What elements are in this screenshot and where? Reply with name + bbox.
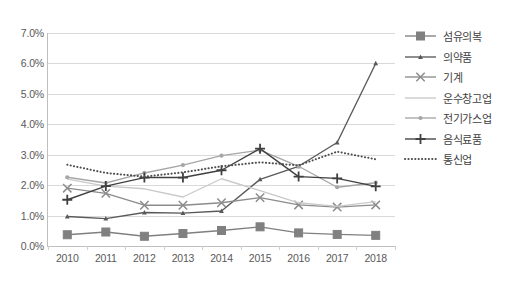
legend-label: 의약품 — [443, 49, 472, 65]
data-point-marker — [178, 173, 188, 183]
legend-label: 기계 — [443, 69, 462, 85]
series-layer — [48, 33, 395, 246]
x-axis-tick — [202, 246, 203, 250]
data-point-marker — [102, 228, 110, 236]
legend-key-icon — [404, 91, 437, 105]
x-tick-label: 2014 — [210, 252, 233, 264]
data-point-marker — [333, 230, 341, 238]
data-point-marker — [256, 223, 264, 231]
legend-key-icon — [404, 70, 437, 84]
plot-area — [48, 33, 395, 246]
y-axis-tick-labels: 0.0%1.0%2.0%3.0%4.0%5.0%6.0%7.0% — [0, 33, 44, 246]
legend-label: 전기가스업 — [443, 110, 492, 126]
data-point-marker — [179, 230, 187, 238]
x-tick-label: 2016 — [287, 252, 310, 264]
legend-label: 통신업 — [443, 151, 472, 167]
data-point-marker — [418, 116, 422, 120]
data-point-marker — [294, 172, 304, 182]
line-chart: 0.0%1.0%2.0%3.0%4.0%5.0%6.0%7.0% 2010201… — [0, 0, 511, 286]
legend-label: 섬유의복 — [443, 28, 482, 44]
x-axis-tick — [395, 246, 396, 250]
legend-item-기계[interactable]: 기계 — [404, 67, 509, 88]
x-axis-tick — [241, 246, 242, 250]
series-의약품 — [65, 61, 378, 221]
chart-legend: 섬유의복의약품기계운수창고업전기가스업음식료품통신업 — [404, 26, 509, 170]
data-point-marker — [140, 232, 148, 240]
series-섬유의복 — [63, 223, 379, 240]
series-line — [67, 188, 375, 207]
data-point-marker — [65, 175, 69, 179]
data-point-marker — [335, 185, 339, 189]
y-tick-label: 1.0% — [4, 210, 44, 222]
legend-item-운수창고업[interactable]: 운수창고업 — [404, 88, 509, 109]
y-tick-label: 3.0% — [4, 149, 44, 161]
data-point-marker — [62, 195, 72, 205]
x-axis-tick-labels: 201020112012201320142015201620172018 — [48, 252, 395, 272]
data-point-marker — [417, 32, 425, 40]
data-point-marker — [332, 173, 342, 183]
legend-label: 운수창고업 — [443, 90, 492, 106]
legend-key-icon — [404, 132, 437, 146]
data-point-marker — [218, 226, 226, 234]
series-기계 — [63, 184, 380, 211]
legend-item-섬유의복[interactable]: 섬유의복 — [404, 26, 509, 47]
data-point-marker — [373, 61, 378, 65]
x-axis-tick — [279, 246, 280, 250]
x-axis-tick — [164, 246, 165, 250]
x-axis-tick — [48, 246, 49, 250]
y-tick-label: 5.0% — [4, 88, 44, 100]
data-point-marker — [219, 154, 223, 158]
legend-key-icon — [404, 50, 437, 64]
legend-item-의약품[interactable]: 의약품 — [404, 47, 509, 68]
gridline-0 — [48, 246, 395, 247]
x-tick-label: 2018 — [364, 252, 387, 264]
x-tick-label: 2013 — [172, 252, 195, 264]
x-axis-tick — [356, 246, 357, 250]
data-point-marker — [372, 231, 380, 239]
y-tick-label: 4.0% — [4, 118, 44, 130]
x-tick-label: 2010 — [56, 252, 79, 264]
legend-key-icon — [404, 111, 437, 125]
x-tick-label: 2012 — [133, 252, 156, 264]
legend-label: 음식료품 — [443, 131, 482, 147]
x-tick-label: 2017 — [326, 252, 349, 264]
legend-item-음식료품[interactable]: 음식료품 — [404, 129, 509, 150]
data-point-marker — [295, 229, 303, 237]
legend-item-통신업[interactable]: 통신업 — [404, 149, 509, 170]
legend-key-icon — [404, 29, 437, 43]
legend-key-icon — [404, 152, 437, 166]
x-tick-label: 2011 — [95, 252, 117, 264]
x-axis-tick — [125, 246, 126, 250]
y-tick-label: 7.0% — [4, 27, 44, 39]
data-point-marker — [181, 163, 185, 167]
y-tick-label: 6.0% — [4, 57, 44, 69]
y-tick-label: 0.0% — [4, 240, 44, 252]
data-point-marker — [63, 231, 71, 239]
data-point-marker — [416, 134, 426, 144]
y-tick-label: 2.0% — [4, 179, 44, 191]
x-axis-tick — [87, 246, 88, 250]
x-axis-tick — [318, 246, 319, 250]
legend-item-전기가스업[interactable]: 전기가스업 — [404, 108, 509, 129]
x-tick-label: 2015 — [249, 252, 272, 264]
